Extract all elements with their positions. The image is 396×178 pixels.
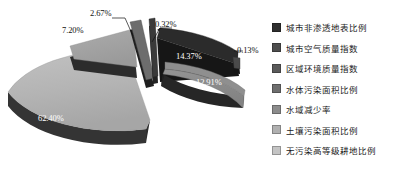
slice-label-water-loss-rate: 2.67% (90, 9, 111, 18)
legend-label: 水体污染面积比例 (286, 83, 358, 95)
legend-label: 水域减少率 (286, 103, 331, 115)
legend-item-soil-pollution[interactable]: 土壤污染面积比例 (272, 120, 396, 141)
legend-item-urban-air-quality[interactable]: 城市空气质量指数 (272, 38, 396, 59)
legend-item-water-loss-rate[interactable]: 水域减少率 (272, 99, 396, 120)
chart-legend: 城市非渗透地表比例 城市空气质量指数 区域环境质量指数 水体污染面积比例 水域减… (272, 17, 396, 161)
pie-chart-plot: 7.20% 2.67% 0.32% 14.37% 0.13% 12.91% 62… (0, 0, 266, 178)
slice-regional-environment (233, 57, 240, 74)
pie-chart-svg (0, 0, 266, 178)
legend-swatch-icon (272, 43, 281, 52)
legend-item-regional-environment[interactable]: 区域环境质量指数 (272, 58, 396, 79)
legend-label: 无污染高等级耕地比例 (286, 144, 376, 156)
legend-swatch-icon (272, 64, 281, 73)
legend-item-urban-impervious[interactable]: 城市非渗透地表比例 (272, 17, 396, 38)
slice-soil-pollution (70, 29, 137, 78)
legend-item-water-body-pollution[interactable]: 水体污染面积比例 (272, 79, 396, 100)
legend-label: 城市空气质量指数 (286, 42, 358, 54)
slice-label-regional-environment: 0.13% (237, 46, 258, 55)
slice-label-water-body-pollution: 12.91% (196, 78, 222, 87)
legend-swatch-icon (272, 84, 281, 93)
slice-label-clean-farmland: 62.40% (38, 114, 64, 123)
slice-label-urban-impervious: 0.32% (155, 20, 176, 29)
legend-label: 城市非渗透地表比例 (286, 21, 367, 33)
pie-chart-figure: 7.20% 2.67% 0.32% 14.37% 0.13% 12.91% 62… (0, 0, 396, 178)
legend-label: 区域环境质量指数 (286, 62, 358, 74)
legend-label: 土壤污染面积比例 (286, 124, 358, 136)
legend-swatch-icon (272, 23, 281, 32)
slice-label-urban-air-quality: 14.37% (176, 52, 202, 61)
legend-swatch-icon (272, 125, 281, 134)
slice-label-soil-pollution: 7.20% (62, 26, 83, 35)
legend-swatch-icon (272, 105, 281, 114)
legend-item-clean-farmland[interactable]: 无污染高等级耕地比例 (272, 140, 396, 161)
legend-swatch-icon (272, 146, 281, 155)
